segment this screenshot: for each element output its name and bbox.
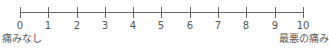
tick-label-7: 7: [208, 20, 228, 31]
tick-4: [133, 7, 134, 18]
tick-6: [190, 7, 191, 18]
tick-8: [246, 7, 247, 18]
tick-7: [218, 7, 219, 18]
tick-9: [275, 7, 276, 18]
no-pain-label: 痛みなし: [2, 33, 42, 45]
tick-label-8: 8: [236, 20, 256, 31]
tick-label-10: 10: [293, 20, 313, 31]
tick-label-0: 0: [10, 20, 30, 31]
pain-scale: 0 1 2 3 4 5 6 7 8 9 10 痛みなし 最悪の痛み: [0, 0, 329, 48]
tick-label-6: 6: [180, 20, 200, 31]
tick-label-1: 1: [38, 20, 58, 31]
worst-pain-label: 最悪の痛み: [279, 33, 329, 45]
tick-label-4: 4: [123, 20, 143, 31]
tick-1: [48, 7, 49, 18]
tick-label-2: 2: [67, 20, 87, 31]
tick-label-5: 5: [151, 20, 171, 31]
tick-label-3: 3: [95, 20, 115, 31]
tick-10: [303, 7, 304, 18]
tick-label-9: 9: [265, 20, 285, 31]
tick-3: [105, 7, 106, 18]
tick-2: [77, 7, 78, 18]
tick-5: [161, 7, 162, 18]
tick-0: [20, 7, 21, 18]
